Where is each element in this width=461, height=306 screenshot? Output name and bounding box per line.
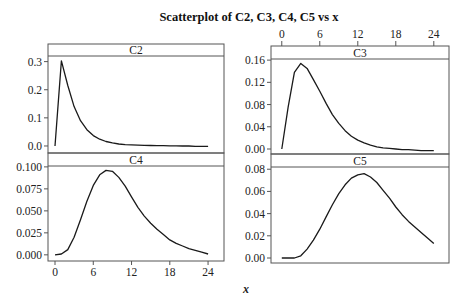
panel-frame [48, 44, 224, 153]
series-line-C5 [282, 174, 434, 258]
panels: C20.00.10.20.3C30.000.040.080.120.160612… [16, 28, 449, 278]
series-line-C3 [282, 63, 434, 150]
series-line-C2 [55, 61, 208, 147]
x-tick-label: 6 [90, 266, 96, 278]
x-tick-label: 12 [352, 28, 364, 40]
y-tick-label: 0.12 [245, 76, 265, 88]
y-tick-label: 0.050 [16, 205, 42, 217]
panel-frame [271, 46, 449, 154]
y-tick-label: 0.06 [245, 185, 265, 197]
strip-label-C5: C5 [353, 155, 367, 167]
y-tick-label: 0.100 [16, 161, 42, 173]
x-tick-label: 6 [317, 28, 323, 40]
y-tick-label: 0.025 [16, 227, 42, 239]
y-tick-label: 0.04 [245, 121, 265, 133]
panel-frame [271, 154, 449, 263]
strip-label-C4: C4 [129, 154, 143, 166]
panel-frame [48, 153, 224, 261]
y-tick-label: 0.00 [245, 143, 265, 155]
panel-C4: C40.0000.0250.0500.0750.10006121824 [16, 153, 224, 278]
chart-title: Scatterplot of C2, C3, C4, C5 vs x [159, 10, 339, 24]
panel-C3: C30.000.040.080.120.1606121824 [245, 28, 449, 155]
y-tick-label: 0.08 [245, 99, 265, 111]
series-line-C4 [55, 170, 208, 254]
x-tick-label: 18 [390, 28, 402, 40]
x-tick-label: 18 [164, 266, 176, 278]
x-tick-label: 0 [52, 266, 58, 278]
y-tick-label: 0.00 [245, 252, 265, 264]
y-tick-label: 0.2 [28, 84, 43, 96]
y-tick-label: 0.04 [245, 208, 265, 220]
x-tick-label: 12 [126, 266, 138, 278]
y-tick-label: 0.3 [28, 56, 43, 68]
panel-C2: C20.00.10.20.3 [28, 44, 224, 154]
x-tick-label: 0 [279, 28, 285, 40]
y-tick-label: 0.02 [245, 230, 265, 242]
strip-label-C3: C3 [353, 47, 367, 59]
strip-label-C2: C2 [129, 44, 143, 56]
chart: Scatterplot of C2, C3, C4, C5 vs x C20.0… [0, 0, 461, 306]
x-tick-label: 24 [202, 266, 214, 278]
y-tick-label: 0.08 [245, 163, 265, 175]
panel-C5: C50.000.020.040.060.08 [245, 154, 449, 264]
y-tick-label: 0.075 [16, 183, 42, 195]
y-tick-label: 0.1 [28, 112, 43, 124]
x-tick-label: 24 [428, 28, 440, 40]
y-tick-label: 0.000 [16, 249, 42, 261]
y-tick-label: 0.0 [28, 140, 43, 152]
x-axis-label: x [242, 282, 249, 296]
y-tick-label: 0.16 [245, 54, 265, 66]
